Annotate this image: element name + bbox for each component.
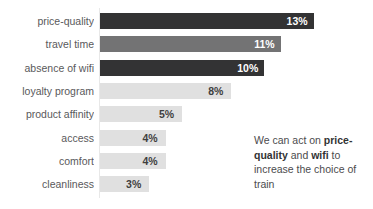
bar-track: 13% (100, 13, 314, 29)
bar-track: 4% (100, 130, 166, 146)
bar-rect (100, 176, 149, 192)
bar-category-label: loyalty program (0, 83, 94, 99)
bar-value-label: 4% (143, 130, 158, 146)
bar-value-label: 8% (208, 83, 223, 99)
chart-annotation-text: We can act on price-quality and wifi to … (254, 133, 366, 191)
bar-track: 5% (100, 106, 182, 122)
bar-track: 3% (100, 176, 149, 192)
bar-row: absence of wifi10% (0, 60, 373, 76)
bar-row: product affinity5% (0, 106, 373, 122)
bar-category-label: cleanliness (0, 176, 94, 192)
bar-row: loyalty program8% (0, 83, 373, 99)
annotation-text-run: and (288, 149, 311, 161)
bar-value-label: 11% (254, 36, 274, 52)
bar-category-label: absence of wifi (0, 60, 94, 76)
bar-category-label: comfort (0, 153, 94, 169)
bar-track: 11% (100, 36, 281, 52)
bar-value-label: 13% (287, 13, 308, 29)
bar-value-label: 10% (237, 60, 258, 76)
bar-category-label: travel time (0, 36, 94, 52)
bar-value-label: 4% (143, 153, 158, 169)
bar-category-label: access (0, 130, 94, 146)
bar-row: price-quality13% (0, 13, 373, 29)
annotation-emphasis: wifi (311, 149, 329, 161)
bar-value-label: 3% (126, 176, 141, 192)
annotation-text-run: We can act on (254, 134, 324, 146)
bar-track: 10% (100, 60, 264, 76)
horizontal-bar-chart: price-quality13%travel time11%absence of… (0, 0, 373, 209)
bar-row: travel time11% (0, 36, 373, 52)
bar-category-label: price-quality (0, 13, 94, 29)
bar-value-label: 5% (159, 106, 174, 122)
bar-track: 4% (100, 153, 166, 169)
bar-category-label: product affinity (0, 106, 94, 122)
bar-track: 8% (100, 83, 231, 99)
bar-rect (100, 13, 314, 29)
